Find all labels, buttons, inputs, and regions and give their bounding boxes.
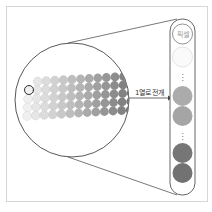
zoom-line-top bbox=[68, 19, 177, 43]
column-cell-4 bbox=[173, 106, 193, 126]
ellipsis-2: ⋮ bbox=[179, 132, 187, 141]
zoom-line-bottom bbox=[68, 157, 177, 195]
column-cell-1-text: 픽셀 bbox=[177, 30, 189, 39]
column-cell-5 bbox=[173, 143, 193, 163]
column-cell-3 bbox=[173, 86, 193, 106]
arrow-label: 1열로 전개 bbox=[135, 87, 164, 97]
column-cell-6 bbox=[173, 163, 193, 183]
pixel-flatten-diagram: 픽셀 ⋮ ⋮ bbox=[0, 0, 212, 212]
column-cell-2 bbox=[173, 47, 193, 67]
ellipsis-1: ⋮ bbox=[179, 73, 187, 82]
